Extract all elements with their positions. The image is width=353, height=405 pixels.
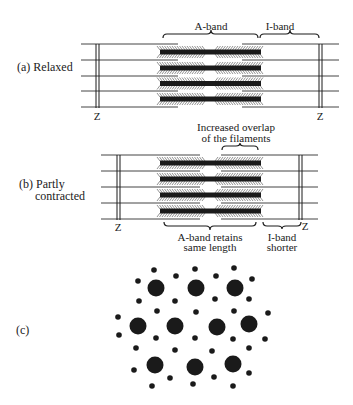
thick-filament-dot <box>227 280 244 297</box>
panel-b-label-line2: contracted <box>35 189 85 203</box>
thin-filament-dot <box>246 370 252 376</box>
thin-filament-dot <box>173 273 179 279</box>
thick-filament-core <box>160 66 261 71</box>
thin-filament-dot <box>209 348 215 354</box>
a-band-brace <box>163 30 258 38</box>
thin-filament-dot <box>167 375 173 381</box>
thick-filament <box>157 78 263 90</box>
thick-filament-dot <box>188 280 205 297</box>
thin-filament-dot <box>190 381 196 387</box>
thick-filament-core <box>160 161 261 166</box>
thin-filament-dot <box>151 267 157 273</box>
overlap-brace <box>222 143 258 150</box>
thin-filament-dot <box>172 298 178 304</box>
thick-filament-dot <box>209 319 226 336</box>
i-band-shorter-brace <box>263 222 301 229</box>
thin-filament-dot <box>136 298 142 304</box>
thin-filament-dot <box>212 296 218 302</box>
thin-filament-dot <box>231 265 237 271</box>
thin-filament-dot <box>131 367 137 373</box>
thick-filament <box>157 189 263 201</box>
panel-a-relaxed: (a) Relaxed A-band I-band Z Z <box>17 20 339 122</box>
filament-lattice <box>115 265 271 389</box>
thin-filament-dot <box>133 345 139 351</box>
thick-filament-dot <box>130 318 147 335</box>
thin-filament-dot <box>154 308 160 314</box>
thin-filament-dot <box>192 266 198 272</box>
thin-filament-dot <box>246 345 252 351</box>
thin-filament-dot <box>153 335 159 341</box>
thin-filament-dot <box>265 310 271 316</box>
sarcomere-diagram: (a) Relaxed A-band I-band Z Z (b) Partly… <box>0 0 353 405</box>
a-band-retains-line2: same length <box>184 241 237 253</box>
thin-filament-dot <box>213 273 219 279</box>
thick-filament <box>157 93 263 105</box>
thin-filament-dot <box>135 278 141 284</box>
thick-filament-core <box>160 193 261 198</box>
z-label-left: Z <box>115 221 122 233</box>
thick-filament <box>157 62 263 74</box>
thick-filament-dot <box>148 280 165 297</box>
thick-filament <box>157 46 263 58</box>
thick-filament-core <box>160 209 261 214</box>
thick-filament <box>157 205 263 217</box>
panel-c-label: (c) <box>16 323 29 337</box>
thick-filament <box>157 173 263 185</box>
thin-filament-dot <box>172 347 178 353</box>
a-band-retains-brace <box>164 222 256 230</box>
thin-filament-dot <box>230 383 236 389</box>
thick-filament-dot <box>167 318 184 335</box>
panel-a-label: (a) Relaxed <box>17 60 73 74</box>
z-label-left: Z <box>94 110 101 122</box>
thick-filament-dot <box>147 357 164 374</box>
thin-filament-dot <box>262 336 268 342</box>
thick-filament-core <box>160 50 261 55</box>
panel-c-cross-section: (c) <box>16 265 271 389</box>
thin-filament-dot <box>192 335 198 341</box>
thin-filament-dot <box>193 309 199 315</box>
thick-filament-dot <box>241 316 258 333</box>
z-label-right: Z <box>302 220 309 232</box>
thin-filament-dot <box>211 374 217 380</box>
thin-filament-dot <box>231 308 237 314</box>
overlap-label-line2: of the filaments <box>201 132 270 144</box>
thick-filament-core <box>160 97 261 102</box>
thick-filament-core <box>160 81 261 86</box>
thick-filament-dot <box>187 359 204 376</box>
z-label-right: Z <box>317 110 324 122</box>
panel-b-partly-contracted: (b) Partly contracted Increased overlap … <box>19 121 318 253</box>
i-band-shorter-line2: shorter <box>267 241 298 253</box>
thin-filament-dot <box>230 336 236 342</box>
thick-filament-dot <box>225 356 242 373</box>
thin-filament-dot <box>116 332 122 338</box>
thin-filament-dot <box>149 383 155 389</box>
thick-filament <box>157 157 263 169</box>
thin-filament-dot <box>115 314 121 320</box>
thick-filament-core <box>160 177 261 182</box>
thin-filament-dot <box>249 276 255 282</box>
thin-filament-dot <box>246 296 252 302</box>
